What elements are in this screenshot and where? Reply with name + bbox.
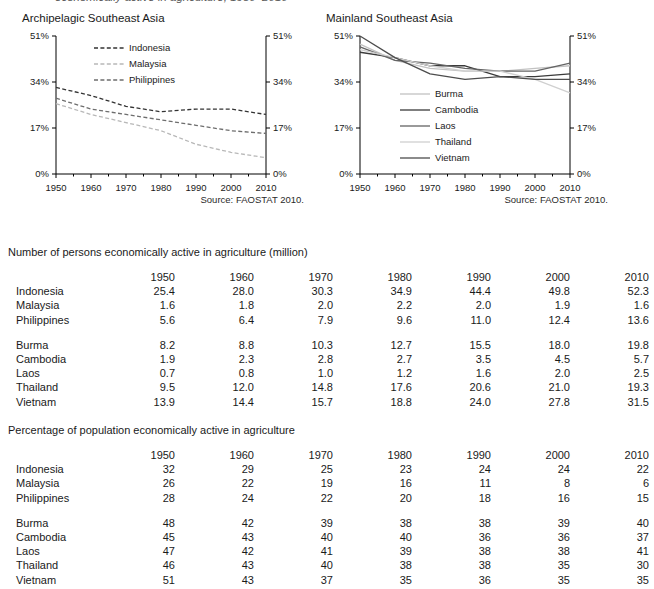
y-tick-left-34%: 34% xyxy=(334,76,354,87)
legend-label-thailand: Thailand xyxy=(435,136,471,147)
legend-label-philippines: Philippines xyxy=(129,74,175,85)
x-tick-1970: 1970 xyxy=(419,182,440,193)
y-tick-left-34%: 34% xyxy=(30,76,50,87)
header-1970: 1970 xyxy=(260,270,339,284)
table-persons-body: Indonesia25.428.030.334.944.449.852.3Mal… xyxy=(8,284,654,409)
row-label-philippines: Philippines xyxy=(8,491,102,505)
table-persons-block: Number of persons economically active in… xyxy=(8,246,609,409)
cell-malaysia-1970: 19 xyxy=(260,476,339,490)
cell-cambodia-1960: 43 xyxy=(181,530,260,544)
header-1960: 1960 xyxy=(181,270,260,284)
cell-philippines-1980: 9.6 xyxy=(339,313,418,327)
cell-vietnam-2010: 31.5 xyxy=(576,395,654,409)
chart-archipelagic-source: Source: FAOSTAT 2010. xyxy=(201,194,305,205)
cell-thailand-2000: 35 xyxy=(497,558,576,572)
table-row: Burma8.28.810.312.715.518.019.8 xyxy=(8,338,654,352)
cell-laos-1980: 39 xyxy=(339,544,418,558)
cell-malaysia-1970: 2.0 xyxy=(260,298,339,312)
table-row: Vietnam13.914.415.718.824.027.831.5 xyxy=(8,395,654,409)
table-row: Laos47424139383841 xyxy=(8,544,654,558)
cell-indonesia-1970: 25 xyxy=(260,462,339,476)
table-row: Thailand46434038383530 xyxy=(8,558,654,572)
series-line-indonesia xyxy=(56,87,266,114)
cell-indonesia-2000: 24 xyxy=(497,462,576,476)
table-header-row: 1950 1960 1970 1980 1990 2000 2010 xyxy=(8,448,654,462)
cell-malaysia-2000: 1.9 xyxy=(497,298,576,312)
cell-burma-1960: 42 xyxy=(181,516,260,530)
header-1980: 1980 xyxy=(339,448,418,462)
cell-burma-2000: 18.0 xyxy=(497,338,576,352)
header-1970: 1970 xyxy=(260,448,339,462)
series-line-laos xyxy=(360,47,570,71)
legend-label-vietnam: Vietnam xyxy=(435,152,470,163)
cell-philippines-1960: 6.4 xyxy=(181,313,260,327)
y-tick-right-34%: 34% xyxy=(577,76,597,87)
cell-cambodia-1950: 45 xyxy=(102,530,181,544)
cell-thailand-2000: 21.0 xyxy=(497,380,576,394)
row-label-burma: Burma xyxy=(8,338,102,352)
row-label-cambodia: Cambodia xyxy=(8,530,102,544)
header-rowlabel xyxy=(8,270,102,284)
cut-off-header-text: economically active in agriculture, 1950… xyxy=(55,0,288,3)
cell-thailand-2010: 19.3 xyxy=(576,380,654,394)
row-label-indonesia: Indonesia xyxy=(8,284,102,298)
table-percentage-block: Percentage of population economically ac… xyxy=(8,424,609,587)
row-label-laos: Laos xyxy=(8,366,102,380)
cell-philippines-2010: 13.6 xyxy=(576,313,654,327)
cell-thailand-1950: 46 xyxy=(102,558,181,572)
cell-indonesia-1970: 30.3 xyxy=(260,284,339,298)
cell-malaysia-2010: 6 xyxy=(576,476,654,490)
x-tick-2000: 2000 xyxy=(524,182,545,193)
y-tick-left-0%: 0% xyxy=(35,168,49,179)
cell-burma-2010: 40 xyxy=(576,516,654,530)
cell-philippines-1950: 5.6 xyxy=(102,313,181,327)
cell-indonesia-1980: 34.9 xyxy=(339,284,418,298)
cell-laos-1970: 41 xyxy=(260,544,339,558)
chart-mainland: Mainland Southeast Asia 0%0%17%17%34%34%… xyxy=(312,8,620,223)
x-tick-1990: 1990 xyxy=(185,182,206,193)
cell-cambodia-1990: 3.5 xyxy=(418,352,497,366)
y-tick-left-51%: 51% xyxy=(30,30,50,41)
cell-laos-1950: 0.7 xyxy=(102,366,181,380)
cell-thailand-1980: 38 xyxy=(339,558,418,572)
x-tick-2000: 2000 xyxy=(220,182,241,193)
cell-laos-2000: 2.0 xyxy=(497,366,576,380)
legend-label-laos: Laos xyxy=(435,120,456,131)
cell-malaysia-1980: 16 xyxy=(339,476,418,490)
cell-philippines-1950: 28 xyxy=(102,491,181,505)
x-tick-1950: 1950 xyxy=(45,182,66,193)
table-percentage-head: 1950 1960 1970 1980 1990 2000 2010 xyxy=(8,448,654,462)
cell-malaysia-1960: 1.8 xyxy=(181,298,260,312)
x-tick-1980: 1980 xyxy=(454,182,475,193)
cell-laos-1990: 1.6 xyxy=(418,366,497,380)
cell-indonesia-1980: 23 xyxy=(339,462,418,476)
cell-vietnam-1960: 43 xyxy=(181,573,260,587)
series-line-philippines xyxy=(56,98,266,133)
table-row: Philippines5.66.47.99.611.012.413.6 xyxy=(8,313,654,327)
cell-vietnam-1980: 35 xyxy=(339,573,418,587)
cell-thailand-1960: 12.0 xyxy=(181,380,260,394)
row-label-vietnam: Vietnam xyxy=(8,395,102,409)
cell-philippines-2010: 15 xyxy=(576,491,654,505)
cut-off-header-strip: economically active in agriculture, 1950… xyxy=(0,0,617,7)
cell-philippines-1970: 22 xyxy=(260,491,339,505)
cell-malaysia-1990: 2.0 xyxy=(418,298,497,312)
table-row: Indonesia25.428.030.334.944.449.852.3 xyxy=(8,284,654,298)
y-tick-right-0%: 0% xyxy=(577,168,591,179)
x-tick-1960: 1960 xyxy=(80,182,101,193)
chart-archipelagic-plot: 0%0%17%17%34%34%51%51%195019601970198019… xyxy=(8,26,316,201)
legend-label-burma: Burma xyxy=(435,88,464,99)
cell-burma-1970: 10.3 xyxy=(260,338,339,352)
x-tick-1980: 1980 xyxy=(150,182,171,193)
cell-cambodia-1970: 2.8 xyxy=(260,352,339,366)
cell-vietnam-1950: 13.9 xyxy=(102,395,181,409)
cell-laos-2010: 2.5 xyxy=(576,366,654,380)
cell-indonesia-1960: 28.0 xyxy=(181,284,260,298)
cell-thailand-1990: 38 xyxy=(418,558,497,572)
cell-indonesia-1990: 44.4 xyxy=(418,284,497,298)
y-tick-right-34%: 34% xyxy=(273,76,293,87)
row-label-philippines: Philippines xyxy=(8,313,102,327)
header-2010: 2010 xyxy=(576,448,654,462)
cell-indonesia-2010: 22 xyxy=(576,462,654,476)
header-1950: 1950 xyxy=(102,448,181,462)
